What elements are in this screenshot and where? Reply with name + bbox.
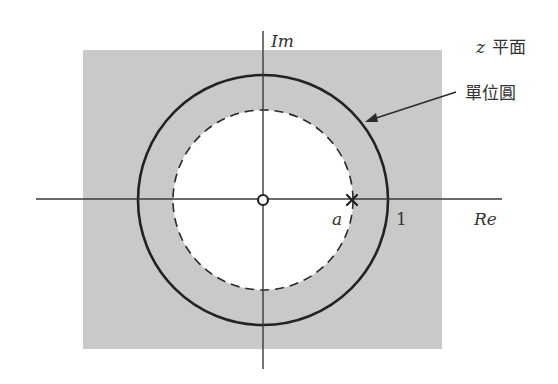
- zero-marker-icon: [258, 195, 268, 205]
- real-axis-label: Re: [473, 209, 497, 229]
- plane-text-label: 平面: [492, 37, 526, 57]
- plane-variable-label: z: [475, 37, 486, 57]
- imag-axis-label: Im: [270, 31, 294, 51]
- z-plane-diagram: Im Re a 1 z 平面 單位圓: [0, 0, 558, 384]
- unit-circle-label: 單位圓: [465, 83, 516, 103]
- unit-point-label: 1: [396, 209, 407, 229]
- pole-label: a: [332, 209, 342, 229]
